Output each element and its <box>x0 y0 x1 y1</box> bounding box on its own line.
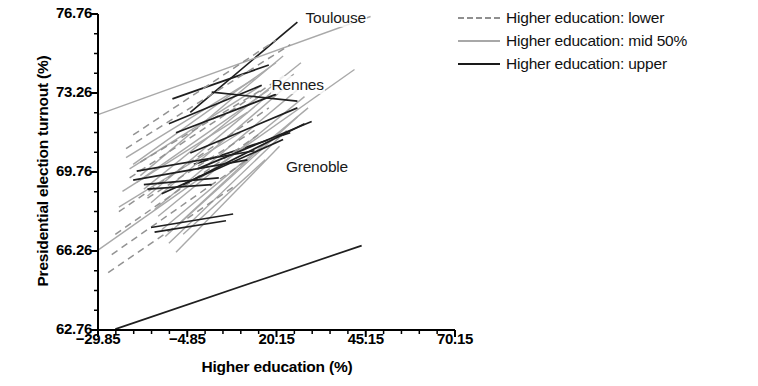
data-line <box>98 16 371 114</box>
x-tick-label: 20.15 <box>229 330 325 347</box>
data-line <box>144 178 219 185</box>
legend-line-dashed-icon <box>458 11 500 25</box>
x-tick-label: −29.85 <box>50 330 146 347</box>
chart-annotation-toulouse: Toulouse <box>305 9 367 27</box>
legend-item-lower[interactable]: Higher education: lower <box>458 6 754 29</box>
data-line <box>112 160 248 255</box>
chart-annotation-rennes: Rennes <box>271 76 325 94</box>
legend-line-gray-icon <box>458 34 500 48</box>
legend-item-upper[interactable]: Higher education: upper <box>458 52 754 75</box>
legend-label-lower: Higher education: lower <box>506 9 664 27</box>
y-ticks <box>91 14 98 330</box>
legend-line-black-icon <box>458 57 500 71</box>
legend-label-mid: Higher education: mid 50% <box>506 32 687 50</box>
legend-item-mid[interactable]: Higher education: mid 50% <box>458 29 754 52</box>
x-axis-title: Higher education (%) <box>98 358 456 376</box>
x-tick-label: 45.15 <box>318 330 414 347</box>
x-axis-tick-labels: −29.85−4.8520.1545.1570.15 <box>0 330 758 356</box>
legend-label-upper: Higher education: upper <box>506 55 667 73</box>
chart-legend: Higher education: lower Higher education… <box>458 6 754 75</box>
x-tick-label: −4.85 <box>139 330 235 347</box>
chart-annotation-grenoble: Grenoble <box>285 158 349 176</box>
data-line <box>115 246 361 330</box>
data-line <box>115 135 258 234</box>
data-line <box>183 160 265 234</box>
x-tick-label: 70.15 <box>407 330 503 347</box>
chart-figure: Presidential election turnout (%) 62.766… <box>0 0 758 386</box>
